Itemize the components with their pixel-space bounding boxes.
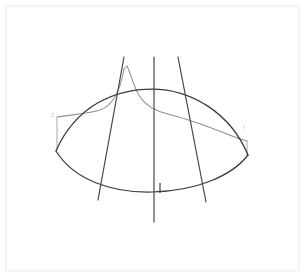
figure-canvas: J I <box>0 0 306 278</box>
meridian-line-left <box>98 57 124 200</box>
outer-border-frame-inner <box>7 7 299 271</box>
meridian-line-right <box>178 57 206 202</box>
lens-upper-arc <box>56 89 248 155</box>
lens-lower-arc <box>56 151 248 192</box>
label-right-endpoint: I <box>243 124 245 130</box>
outer-border-frame <box>6 6 299 271</box>
label-left-endpoint: J <box>51 112 54 118</box>
geometric-figure-svg: J I <box>0 0 306 278</box>
gray-profile-curve <box>57 66 247 141</box>
